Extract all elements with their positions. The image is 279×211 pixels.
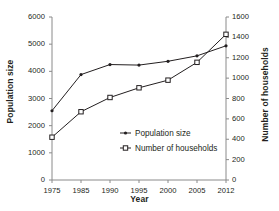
legend-item-label: Population size — [135, 129, 191, 138]
chart-container: Population size Number of households Yea… — [0, 0, 279, 211]
plot-area: Population sizeNumber of households — [0, 0, 279, 211]
axis-lines — [49, 17, 229, 183]
legend-item-label: Number of households — [135, 144, 217, 153]
series-layer — [50, 32, 228, 139]
chart-legend: Population sizeNumber of households — [120, 129, 217, 153]
